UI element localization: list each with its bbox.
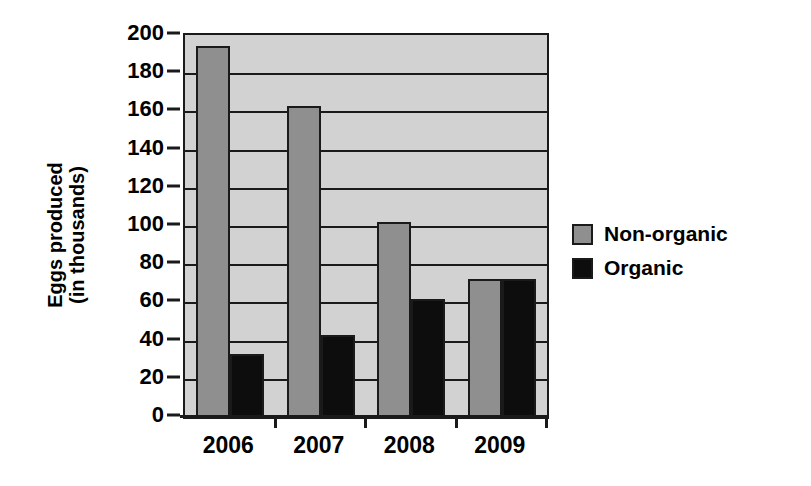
bar-organic-2009 (502, 279, 536, 417)
bar-non-organic-2008 (377, 222, 411, 417)
chart-figure: Eggs produced (in thousands) 20018016014… (0, 0, 811, 486)
legend-swatch-non-organic (572, 224, 593, 245)
bar-non-organic-2006 (196, 46, 230, 417)
y-tick-mark-140 (167, 146, 180, 149)
bar-non-organic-2009 (468, 279, 502, 417)
y-tick-mark-200 (167, 32, 180, 35)
y-tick-label-20: 20 (140, 366, 164, 388)
y-tick-label-0: 0 (152, 404, 164, 426)
legend-label-organic: Organic (604, 256, 683, 280)
y-tick-mark-40 (167, 337, 180, 340)
bar-organic-2007 (321, 335, 355, 417)
y-axis-title: Eggs produced (in thousands) (36, 110, 96, 360)
y-tick-mark-120 (167, 184, 180, 187)
chart-legend: Non-organic Organic (572, 219, 728, 287)
y-tick-label-80: 80 (140, 251, 164, 273)
bar-organic-2008 (411, 299, 445, 417)
x-tick-mark-3 (455, 416, 458, 428)
x-tick-label-2009: 2009 (474, 432, 525, 459)
y-tick-mark-80 (167, 261, 180, 264)
y-axis-title-line1: Eggs produced (44, 162, 66, 308)
y-tick-mark-180 (167, 70, 180, 73)
legend-swatch-organic (572, 258, 593, 279)
x-tick-mark-2 (364, 416, 367, 428)
x-tick-mark-1 (274, 416, 277, 428)
y-tick-mark-60 (167, 299, 180, 302)
y-tick-mark-20 (167, 375, 180, 378)
x-tick-mark-4 (545, 416, 548, 428)
gridline-100 (185, 226, 547, 228)
gridline-180 (185, 73, 547, 75)
x-tick-label-2008: 2008 (384, 432, 435, 459)
y-axis-title-line2: (in thousands) (66, 166, 88, 304)
x-tick-label-2007: 2007 (293, 432, 344, 459)
plot-area (183, 33, 549, 419)
gridline-160 (185, 111, 547, 113)
legend-item-organic: Organic (572, 253, 728, 283)
gridline-140 (185, 150, 547, 152)
y-tick-label-120: 120 (127, 175, 164, 197)
y-tick-label-160: 160 (127, 98, 164, 120)
y-tick-mark-100 (167, 223, 180, 226)
y-tick-mark-160 (167, 108, 180, 111)
y-tick-label-100: 100 (127, 213, 164, 235)
bar-organic-2006 (230, 354, 264, 417)
y-tick-label-60: 60 (140, 289, 164, 311)
gridline-80 (185, 264, 547, 266)
y-tick-label-180: 180 (127, 60, 164, 82)
y-tick-mark-0 (167, 414, 180, 417)
y-tick-label-200: 200 (127, 22, 164, 44)
legend-item-non-organic: Non-organic (572, 219, 728, 249)
y-tick-label-140: 140 (127, 137, 164, 159)
y-tick-label-40: 40 (140, 328, 164, 350)
bar-non-organic-2007 (287, 106, 321, 417)
x-tick-label-2006: 2006 (203, 432, 254, 459)
legend-label-non-organic: Non-organic (604, 222, 728, 246)
gridline-120 (185, 188, 547, 190)
y-axis-ticks: 200180160140120100806040200 (108, 33, 180, 415)
